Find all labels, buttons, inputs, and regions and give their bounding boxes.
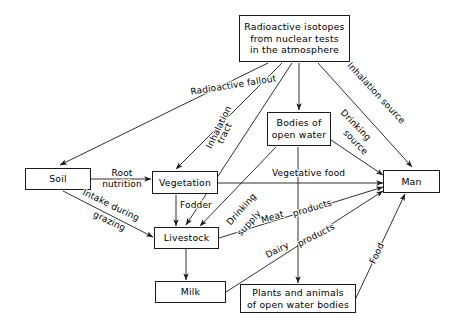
diagram-canvas: Radioactive isotopes from nuclear tests … (0, 0, 464, 335)
node-man-label: Man (401, 176, 421, 188)
node-livestock-label: Livestock (164, 232, 209, 244)
node-vegetation-label: Vegetation (159, 177, 211, 189)
node-milk: Milk (155, 281, 226, 303)
node-plants: Plants and animals of open water bodies (240, 284, 356, 313)
node-man: Man (383, 170, 440, 193)
node-source-label: Radioactive isotopes from nuclear tests … (244, 21, 344, 57)
edge-label-root-nutrition: Root nutrition (95, 168, 149, 190)
node-source: Radioactive isotopes from nuclear tests … (239, 15, 350, 62)
node-plants-label: Plants and animals of open water bodies (247, 287, 349, 311)
node-water: Bodies of open water (267, 112, 331, 146)
node-livestock: Livestock (154, 227, 219, 249)
node-water-label: Bodies of open water (272, 117, 327, 141)
node-soil-label: Soil (49, 173, 67, 185)
edge-label-fodder: Fodder (180, 200, 212, 211)
node-soil: Soil (25, 168, 91, 190)
node-milk-label: Milk (181, 286, 200, 298)
edge-label-vegetative-food: Vegetative food (272, 168, 345, 179)
node-vegetation: Vegetation (152, 171, 218, 194)
